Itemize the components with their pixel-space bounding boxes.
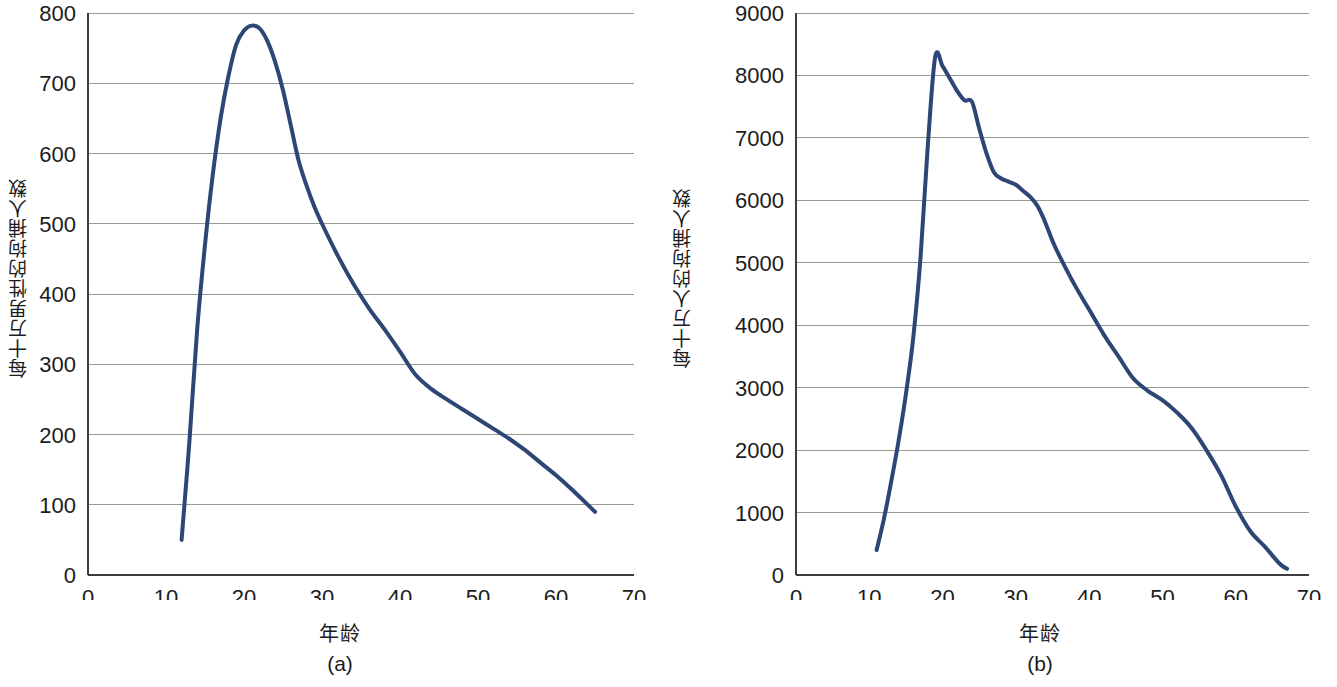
y-tick-label: 200 <box>39 423 76 448</box>
x-tick-label: 0 <box>82 585 94 600</box>
y-tick-label: 100 <box>39 493 76 518</box>
y-tick-label: 1000 <box>735 501 784 526</box>
x-tick-label: 0 <box>790 585 802 600</box>
x-tick-label: 50 <box>466 585 490 600</box>
y-tick-label: 500 <box>39 212 76 237</box>
chart-a-plot: 0100200300400500600700800010203040506070 <box>0 0 668 600</box>
chart-a-y-axis-label: 每十万男性的拘捕人数 <box>4 178 31 378</box>
x-tick-label: 50 <box>1150 585 1174 600</box>
y-tick-label: 600 <box>39 142 76 167</box>
figure-page: 0100200300400500600700800010203040506070… <box>0 0 1337 687</box>
chart-panel-b: 0100020003000400050006000700080009000010… <box>668 0 1337 687</box>
chart-a-caption: (a) <box>260 652 420 676</box>
y-tick-label: 2000 <box>735 438 784 463</box>
chart-b-x-axis-label: 年龄 <box>960 618 1120 647</box>
y-tick-label: 8000 <box>735 63 784 88</box>
chart-b-plot: 0100020003000400050006000700080009000010… <box>668 0 1337 600</box>
y-tick-label: 300 <box>39 352 76 377</box>
x-tick-label: 40 <box>388 585 412 600</box>
y-tick-label: 800 <box>39 1 76 26</box>
x-tick-label: 10 <box>857 585 881 600</box>
data-line <box>877 52 1287 569</box>
x-tick-label: 30 <box>310 585 334 600</box>
chart-a-x-axis-label: 年龄 <box>260 618 420 647</box>
y-tick-label: 6000 <box>735 188 784 213</box>
x-tick-label: 30 <box>1004 585 1028 600</box>
x-tick-label: 60 <box>544 585 568 600</box>
y-tick-label: 0 <box>772 563 784 588</box>
x-tick-label: 20 <box>232 585 256 600</box>
x-tick-label: 70 <box>1297 585 1321 600</box>
x-tick-label: 70 <box>622 585 646 600</box>
y-tick-label: 0 <box>64 563 76 588</box>
y-tick-label: 4000 <box>735 313 784 338</box>
chart-panel-a: 0100200300400500600700800010203040506070… <box>0 0 668 687</box>
x-tick-label: 40 <box>1077 585 1101 600</box>
y-tick-label: 7000 <box>735 126 784 151</box>
x-tick-label: 10 <box>154 585 178 600</box>
x-tick-label: 20 <box>930 585 954 600</box>
y-tick-label: 400 <box>39 282 76 307</box>
y-tick-label: 9000 <box>735 1 784 26</box>
data-line <box>182 26 595 540</box>
y-tick-label: 3000 <box>735 376 784 401</box>
x-tick-label: 60 <box>1223 585 1247 600</box>
y-tick-label: 5000 <box>735 251 784 276</box>
chart-b-y-axis-label: 每十万人的拘捕人数 <box>668 188 695 368</box>
chart-b-caption: (b) <box>960 652 1120 676</box>
y-tick-label: 700 <box>39 71 76 96</box>
